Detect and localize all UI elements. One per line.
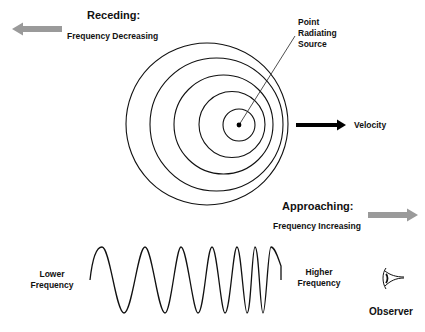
approaching-subtitle: Frequency Increasing bbox=[273, 222, 361, 231]
source-label-line3: Source bbox=[298, 39, 337, 50]
higher-frequency-line2: Frequency bbox=[289, 278, 349, 289]
lower-frequency-line1: Lower bbox=[22, 269, 82, 280]
receding-title: Receding: bbox=[87, 10, 140, 21]
receding-arrow-icon bbox=[12, 23, 62, 36]
higher-frequency-label: Higher Frequency bbox=[289, 267, 349, 289]
approaching-title: Approaching: bbox=[282, 201, 354, 212]
source-label-line1: Point bbox=[298, 17, 337, 28]
velocity-label: Velocity bbox=[354, 121, 386, 130]
source-label-line2: Radiating bbox=[298, 28, 337, 39]
wavefront-circles bbox=[126, 43, 288, 205]
lower-frequency-line2: Frequency bbox=[22, 280, 82, 291]
approaching-arrow-icon bbox=[368, 209, 418, 222]
wavefront-2 bbox=[150, 58, 283, 191]
higher-frequency-line1: Higher bbox=[289, 267, 349, 278]
receding-subtitle: Frequency Decreasing bbox=[67, 32, 158, 41]
observer-label: Observer bbox=[369, 307, 413, 317]
point-source-dot bbox=[237, 123, 242, 128]
eye-icon bbox=[383, 268, 404, 289]
velocity-arrow-icon bbox=[296, 120, 346, 131]
point-source-label: Point Radiating Source bbox=[298, 17, 337, 50]
lower-frequency-label: Lower Frequency bbox=[22, 269, 82, 291]
frequency-wave bbox=[90, 247, 281, 313]
